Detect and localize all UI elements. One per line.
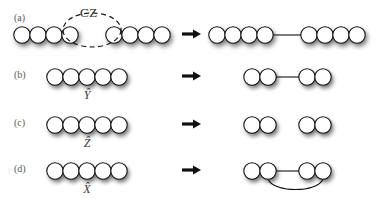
row-c-left-shadows: [49, 120, 130, 137]
row-d-arc-2-4: [268, 179, 323, 189]
row-a-arrow-icon: [182, 30, 201, 39]
row-d-operation-label: X̂: [79, 182, 95, 197]
cz-gate-label: CZ: [80, 5, 98, 21]
row-label-d: (d): [14, 163, 26, 174]
row-c-arrow-icon: [182, 120, 201, 129]
row-a-left-shadows: [16, 30, 173, 47]
row-b-right-nodes: [244, 69, 331, 85]
diagram-svg: [0, 0, 382, 199]
row-d-right-nodes: [244, 163, 331, 179]
row-c-right-nodes: [244, 117, 331, 133]
row-c-left-nodes: [47, 117, 127, 133]
figure-canvas: (a) (b) (c) (d) CZ Ŷ Ẑ X̂: [0, 0, 382, 199]
row-d-right-shadows: [246, 166, 334, 183]
row-d-arrow-icon: [182, 166, 201, 175]
row-label-a: (a): [14, 12, 25, 23]
row-b-right-shadows: [246, 72, 334, 89]
row-a-right-shadows: [211, 30, 368, 47]
row-c-operation-label: Ẑ: [79, 136, 95, 151]
row-d-left-nodes: [47, 163, 127, 179]
row-d-left-shadows: [49, 166, 130, 183]
row-label-b: (b): [14, 69, 26, 80]
row-a-right-nodes: [209, 27, 365, 43]
row-b-operation-label: Ŷ: [79, 88, 95, 103]
row-a-left-nodes: [14, 27, 170, 43]
row-label-c: (c): [14, 117, 25, 128]
row-c-right-shadows: [246, 120, 334, 137]
row-b-arrow-icon: [182, 72, 201, 81]
row-b-left-shadows: [49, 72, 130, 89]
row-b-left-nodes: [47, 69, 127, 85]
